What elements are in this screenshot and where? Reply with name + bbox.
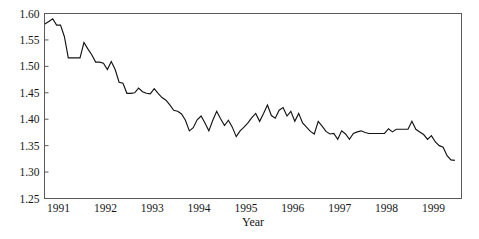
y-axis-tick-label: 1.60: [19, 8, 39, 20]
plot-frame: [45, 14, 462, 199]
y-axis-tick-label: 1.30: [19, 166, 39, 178]
x-axis-tick-label: 1996: [281, 202, 304, 214]
x-axis-tick-label: 1991: [47, 202, 70, 214]
chart-figure: 1.601.551.501.451.401.351.301.25 1991199…: [0, 0, 479, 239]
x-axis-tick-labels: 199119921993199419951996199719981999: [47, 202, 445, 214]
line-chart: 1.601.551.501.451.401.351.301.25 1991199…: [0, 0, 479, 239]
y-axis-tick-label: 1.50: [19, 60, 39, 72]
y-axis-tick-label: 1.55: [19, 34, 39, 46]
x-axis-tick-label: 1993: [141, 202, 164, 214]
y-axis-tick-label: 1.25: [19, 193, 39, 205]
y-axis-tick-labels: 1.601.551.501.451.401.351.301.25: [19, 8, 39, 205]
x-axis-tick-label: 1998: [375, 202, 398, 214]
y-axis-tick-label: 1.45: [19, 87, 39, 99]
x-axis-tick-label: 1997: [328, 202, 351, 214]
y-axis-tick-label: 1.35: [19, 140, 39, 152]
x-axis-title: Year: [242, 215, 264, 229]
x-axis-tick-label: 1994: [188, 202, 211, 214]
series-line: [45, 19, 455, 161]
series-line-group: [45, 19, 455, 161]
x-axis-tick-label: 1992: [94, 202, 117, 214]
x-axis-tick-label: 1999: [422, 202, 445, 214]
x-axis-tick-label: 1995: [234, 202, 257, 214]
y-axis-ticks: [45, 14, 49, 199]
y-axis-tick-label: 1.40: [19, 113, 39, 125]
